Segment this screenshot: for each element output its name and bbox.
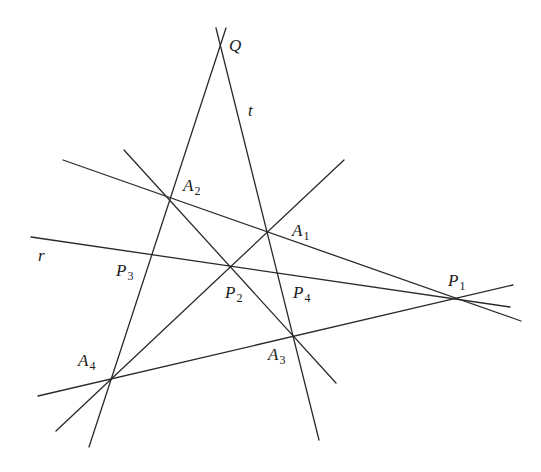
label-a3: A3 [267,345,285,367]
label-a4-subscript: 4 [89,359,95,373]
label-a1: A1 [291,221,309,243]
label-p3: P3 [115,261,133,283]
label-a2: A2 [182,176,200,198]
label-t: t [248,101,254,120]
label-a3-subscript: 3 [279,353,285,367]
label-p2: P2 [224,283,242,305]
geometry-diagram: QtA2A1rP3P2P4P1A4A3 [0,0,541,472]
lines-group [31,28,521,447]
label-p1: P1 [447,271,465,293]
label-p3-subscript: 3 [127,269,133,283]
line-a2-a1-p1 [63,160,521,321]
label-p1-subscript: 1 [459,279,465,293]
label-a1-subscript: 1 [303,229,309,243]
label-q: Q [229,36,241,55]
label-p4-subscript: 4 [304,291,310,305]
label-p2-subscript: 2 [236,291,242,305]
labels-group: QtA2A1rP3P2P4P1A4A3 [38,36,465,373]
label-p4: P4 [292,283,310,305]
label-r: r [38,246,45,265]
label-a2-subscript: 2 [194,184,200,198]
label-a4: A4 [77,351,95,373]
line-q-a2-a4 [89,28,226,447]
line-a4-a3-p1 [38,285,513,396]
